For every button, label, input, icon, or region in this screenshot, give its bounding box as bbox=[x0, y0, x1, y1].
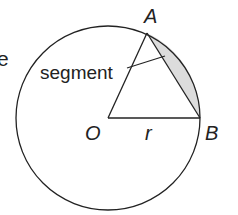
circle-segment-diagram: e segment A O r B bbox=[0, 0, 238, 215]
radius-OA bbox=[108, 33, 147, 118]
label-r: r bbox=[145, 122, 153, 144]
label-B: B bbox=[205, 122, 218, 144]
chord-AB bbox=[147, 33, 200, 118]
label-A: A bbox=[143, 5, 157, 27]
label-O: O bbox=[85, 122, 101, 144]
cut-text: e bbox=[0, 47, 9, 70]
segment-pointer bbox=[127, 56, 165, 68]
label-segment: segment bbox=[40, 62, 114, 83]
